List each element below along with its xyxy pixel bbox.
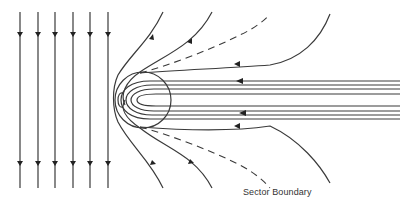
field-line-diagram bbox=[0, 0, 418, 212]
sector-boundary-label: Sector Boundary bbox=[243, 187, 312, 197]
diagram-canvas: Sector Boundary bbox=[0, 0, 418, 212]
draped-field-lines bbox=[114, 12, 213, 188]
down-arrow-icons bbox=[17, 32, 111, 166]
tail-boundary-lines bbox=[140, 14, 330, 183]
sector-boundary-lines bbox=[140, 14, 270, 188]
magnetotail-lines bbox=[118, 78, 400, 119]
incoming-field-lines bbox=[17, 12, 111, 188]
